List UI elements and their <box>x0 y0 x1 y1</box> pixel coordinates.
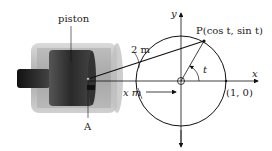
y-axis-label: y <box>170 8 177 19</box>
angle-label: t <box>203 64 208 75</box>
rod-length-label: 2 m <box>131 44 151 55</box>
unit-point-label: (1, 0) <box>226 87 253 98</box>
point-p <box>202 39 205 42</box>
point-a-label: A <box>83 121 92 132</box>
unit-point-marker <box>225 80 227 82</box>
displacement-label: x m <box>123 87 141 98</box>
piston-crank-diagram: piston A 2 m x m P(cos t, sin t) t (1, 0… <box>0 0 272 151</box>
x-axis-label: x <box>252 68 258 79</box>
piston-rod <box>17 69 50 88</box>
angle-arc <box>190 66 199 81</box>
piston-label: piston <box>58 13 90 24</box>
point-p-label: P(cos t, sin t) <box>196 25 263 36</box>
